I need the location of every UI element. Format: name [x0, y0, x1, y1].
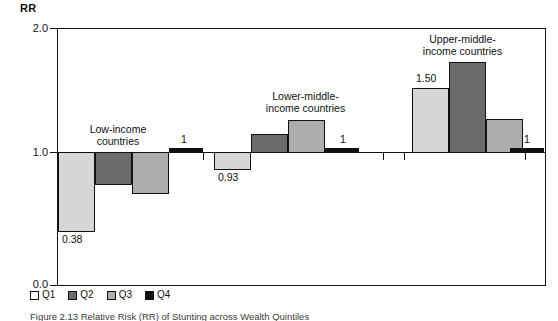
- chart-figure: RR 2.0 1.0 0.0 Low-income countries 0.38…: [0, 0, 558, 321]
- legend-label-q1: Q1: [42, 290, 55, 300]
- legend-item-q4[interactable]: Q4: [145, 290, 170, 300]
- bar-low-income-q3: [132, 152, 169, 194]
- group-label-upper-middle-income-line2: income countries: [423, 45, 502, 57]
- bar-lower-middle-income-q1: [214, 152, 251, 170]
- legend-swatch-q3-icon: [107, 291, 116, 300]
- group-separator-tick-5: [525, 153, 526, 160]
- group-label-low-income: Low-income countries: [68, 123, 168, 147]
- legend-item-q1[interactable]: Q1: [30, 290, 55, 300]
- legend-label-q3: Q3: [119, 290, 132, 300]
- y-tick-label-2: 2.0: [18, 23, 48, 34]
- plot-frame-right: [545, 28, 546, 286]
- group-label-lower-middle-income-line1: Lower-middle-: [272, 90, 339, 102]
- bar-lower-middle-income-q4: [325, 148, 359, 153]
- bar-upper-middle-income-q2: [449, 62, 486, 153]
- value-label-upper-middle-income-q4: 1: [524, 134, 530, 145]
- legend-label-q2: Q2: [80, 290, 93, 300]
- value-label-lower-middle-income-q1: 0.93: [218, 172, 238, 183]
- group-separator-tick-1: [203, 153, 204, 160]
- value-label-upper-middle-income-q1: 1.50: [416, 73, 436, 84]
- plot-axis-bottom: [57, 285, 546, 286]
- group-label-upper-middle-income-line1: Upper-middle-: [429, 33, 496, 45]
- bar-upper-middle-income-q1: [412, 88, 449, 153]
- bar-low-income-q4: [169, 148, 203, 153]
- bar-lower-middle-income-q3: [288, 120, 325, 153]
- bar-upper-middle-income-q4: [510, 148, 544, 153]
- legend-item-q3[interactable]: Q3: [107, 290, 132, 300]
- figure-caption: Figure 2.13 Relative Risk (RR) of Stunti…: [30, 311, 550, 321]
- y-tick-label-1: 1.0: [18, 147, 48, 158]
- group-label-upper-middle-income: Upper-middle- income countries: [400, 33, 525, 57]
- legend-label-q4: Q4: [157, 290, 170, 300]
- legend-swatch-q4-icon: [145, 291, 154, 300]
- legend-swatch-q2-icon: [68, 291, 77, 300]
- group-label-lower-middle-income: Lower-middle- income countries: [243, 90, 368, 114]
- group-label-low-income-line2: countries: [97, 135, 140, 147]
- chart-legend: Q1 Q2 Q3 Q4: [30, 290, 170, 300]
- bar-low-income-q1: [58, 152, 95, 232]
- group-label-low-income-line1: Low-income: [90, 123, 147, 135]
- plot-frame-top: [57, 28, 546, 29]
- value-label-lower-middle-income-q4: 1: [340, 134, 346, 145]
- group-separator-tick-4: [404, 153, 405, 160]
- value-label-low-income-q1: 0.38: [62, 234, 82, 245]
- group-label-lower-middle-income-line2: income countries: [266, 102, 345, 114]
- legend-item-q2[interactable]: Q2: [68, 290, 93, 300]
- legend-swatch-q1-icon: [30, 291, 39, 300]
- group-separator-tick-3: [383, 153, 384, 160]
- bar-low-income-q2: [95, 152, 132, 185]
- y-axis-title: RR: [20, 2, 36, 14]
- bar-lower-middle-income-q2: [251, 134, 288, 153]
- value-label-low-income-q4: 1: [181, 134, 187, 145]
